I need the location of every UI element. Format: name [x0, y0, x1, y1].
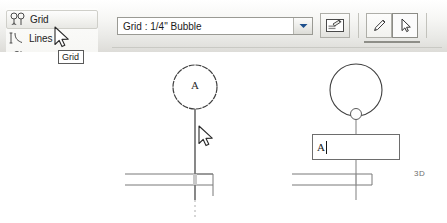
- active-tool-underline: [364, 41, 420, 43]
- element-properties-button[interactable]: [320, 13, 350, 38]
- toolbar-divider: [112, 47, 442, 48]
- menu-item-grid[interactable]: Grid: [6, 10, 98, 29]
- tooltip-text: Grid: [62, 52, 79, 62]
- left-grid-bubble-label: A: [191, 79, 199, 91]
- grid-bubble-icon: [10, 12, 27, 27]
- menu-item-lines-label: Lines: [29, 33, 52, 44]
- drag-grip-icon: [351, 109, 362, 120]
- grid-bubble-glyph: [10, 12, 27, 27]
- menu-item-grid-label: Grid: [30, 14, 49, 25]
- grid-type-value: Grid : 1/4" Bubble: [118, 21, 293, 32]
- mouse-cursor-canvas: [197, 125, 219, 151]
- grid-name-edit-value: A: [313, 141, 325, 153]
- toolbar-separator: [358, 13, 359, 38]
- lines-icon: [9, 31, 26, 46]
- text-caret: [326, 141, 327, 154]
- arrow-cursor-icon: [398, 17, 413, 34]
- arrow-cursor-icon: [53, 26, 75, 52]
- grid-name-edit-field[interactable]: A: [312, 134, 400, 160]
- left-wall: [125, 174, 213, 196]
- chevron-down-glyph: [298, 22, 309, 30]
- arrow-cursor-icon: [197, 125, 219, 151]
- view-label-3d: 3D: [414, 169, 425, 178]
- lines-glyph: [9, 31, 26, 46]
- grid-type-combobox[interactable]: Grid : 1/4" Bubble: [117, 17, 313, 35]
- right-wall: [292, 174, 372, 185]
- draw-line-button[interactable]: [366, 13, 392, 38]
- toolbar-separator-right: [426, 13, 427, 38]
- pencil-icon: [371, 17, 388, 34]
- element-properties-icon: [325, 17, 345, 34]
- screenshot-root: Grid : 1/4" Bubble: [0, 0, 447, 223]
- chevron-down-icon[interactable]: [293, 18, 312, 34]
- tooltip-grid: Grid: [58, 50, 84, 64]
- pick-select-button[interactable]: [392, 13, 418, 38]
- drawing-canvas[interactable]: A 3D: [0, 52, 447, 223]
- menu-item-lines[interactable]: Lines: [6, 29, 98, 48]
